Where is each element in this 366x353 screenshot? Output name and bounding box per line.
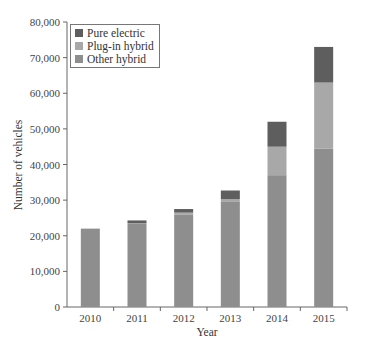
y-tick-label: 20,000 xyxy=(30,230,61,242)
x-tick-label: 2014 xyxy=(266,312,289,324)
bar-segment xyxy=(128,224,147,307)
stacked-bar-chart: 010,00020,00030,00040,00050,00060,00070,… xyxy=(0,0,366,353)
bar-segment xyxy=(314,83,333,149)
bar-segment xyxy=(314,47,333,83)
y-axis-title: Number of vehicles xyxy=(12,119,24,210)
bar-stack xyxy=(268,122,287,307)
bar-stack xyxy=(81,229,100,307)
bar-segment xyxy=(268,147,287,176)
legend-swatch xyxy=(75,55,83,63)
bar-stack xyxy=(174,209,193,307)
bar-segment xyxy=(81,229,100,307)
x-axis: 201020112012201320142015 xyxy=(67,307,347,324)
x-tick-label: 2011 xyxy=(126,312,148,324)
bar-segment xyxy=(174,213,193,215)
bar-segment xyxy=(221,199,240,202)
bar-segment xyxy=(268,175,287,307)
legend-swatch xyxy=(75,42,83,50)
x-tick-label: 2012 xyxy=(173,312,195,324)
bar-segment xyxy=(221,191,240,200)
y-tick-label: 0 xyxy=(55,301,61,313)
x-tick-label: 2010 xyxy=(79,312,102,324)
bar-segment xyxy=(268,122,287,147)
y-tick-label: 60,000 xyxy=(30,87,61,99)
legend-label: Plug-in hybrid xyxy=(87,40,154,53)
legend-label: Pure electric xyxy=(87,27,145,39)
y-axis: 010,00020,00030,00040,00050,00060,00070,… xyxy=(30,16,67,313)
legend-label: Other hybrid xyxy=(87,53,146,66)
bar-stack xyxy=(314,47,333,307)
legend: Pure electricPlug-in hybridOther hybrid xyxy=(71,25,160,68)
bar-segment xyxy=(174,209,193,213)
bar-segment xyxy=(128,223,147,224)
y-tick-label: 70,000 xyxy=(30,52,61,64)
bar-segment xyxy=(174,214,193,307)
bar-segment xyxy=(128,220,147,223)
y-tick-label: 50,000 xyxy=(30,123,61,135)
bar-segment xyxy=(221,202,240,307)
y-tick-label: 30,000 xyxy=(30,194,61,206)
bar-stack xyxy=(221,191,240,307)
x-tick-label: 2015 xyxy=(313,312,336,324)
bars xyxy=(81,47,333,307)
y-tick-label: 40,000 xyxy=(30,159,61,171)
bar-segment xyxy=(314,148,333,307)
x-tick-label: 2013 xyxy=(219,312,242,324)
y-tick-label: 80,000 xyxy=(30,16,61,28)
bar-stack xyxy=(128,220,147,307)
y-tick-label: 10,000 xyxy=(30,265,61,277)
legend-swatch xyxy=(75,29,83,37)
x-axis-title: Year xyxy=(196,326,217,338)
